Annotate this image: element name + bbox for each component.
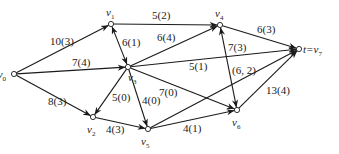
edge-label: 10(3) — [50, 35, 74, 48]
node-label-v0: s=v0 — [0, 68, 7, 83]
node-v0 — [11, 71, 16, 76]
edge-label: 4(0) — [142, 94, 161, 107]
node-v3 — [125, 64, 130, 69]
node-label-v5: v5 — [141, 135, 150, 150]
node-v1 — [108, 21, 113, 26]
label-layer: 10(3)7(4)8(3)5(2)6(1)6(4)5(1)5(0)4(0)7(0… — [0, 6, 322, 150]
node-v5 — [145, 126, 150, 131]
node-v6 — [234, 107, 239, 112]
edge-label: 4(3) — [106, 123, 125, 136]
edge-label: 6(4) — [157, 31, 176, 44]
edge-label: 5(2) — [152, 9, 171, 22]
edge-label: 4(1) — [183, 122, 202, 135]
node-label-v3: v3 — [128, 71, 137, 86]
edge-label: 7(4) — [72, 56, 91, 69]
diagram-canvas: 10(3)7(4)8(3)5(2)6(1)6(4)5(1)5(0)4(0)7(0… — [0, 0, 339, 154]
edge-label: 6(1) — [122, 36, 141, 49]
edge-label: 6(3) — [257, 23, 276, 36]
edge-label: 7(0) — [159, 86, 178, 99]
edge-label: 5(1) — [189, 60, 208, 73]
edge-v6-v7 — [239, 51, 297, 108]
node-label-v2: v2 — [87, 123, 96, 138]
node-label-v4: v4 — [215, 7, 224, 22]
edge-label: 8(3) — [48, 95, 67, 108]
edge-v1-v4 — [114, 24, 218, 25]
edge-label: 5(0) — [112, 91, 131, 104]
node-v2 — [90, 114, 95, 119]
edge-v0-v1 — [16, 25, 108, 73]
edge-label: 13(4) — [266, 84, 290, 97]
edge-label: 7(3) — [228, 41, 247, 54]
node-label-v7: t=v7 — [303, 43, 322, 58]
edge-label: (6, 2) — [232, 64, 256, 77]
node-label-v1: v1 — [106, 6, 115, 21]
edge-v0-v3 — [17, 67, 126, 74]
node-v7 — [296, 46, 301, 51]
flow-network-diagram: 10(3)7(4)8(3)5(2)6(1)6(4)5(1)5(0)4(0)7(0… — [0, 0, 339, 154]
node-label-v6: v6 — [232, 116, 241, 131]
node-v4 — [217, 22, 222, 27]
